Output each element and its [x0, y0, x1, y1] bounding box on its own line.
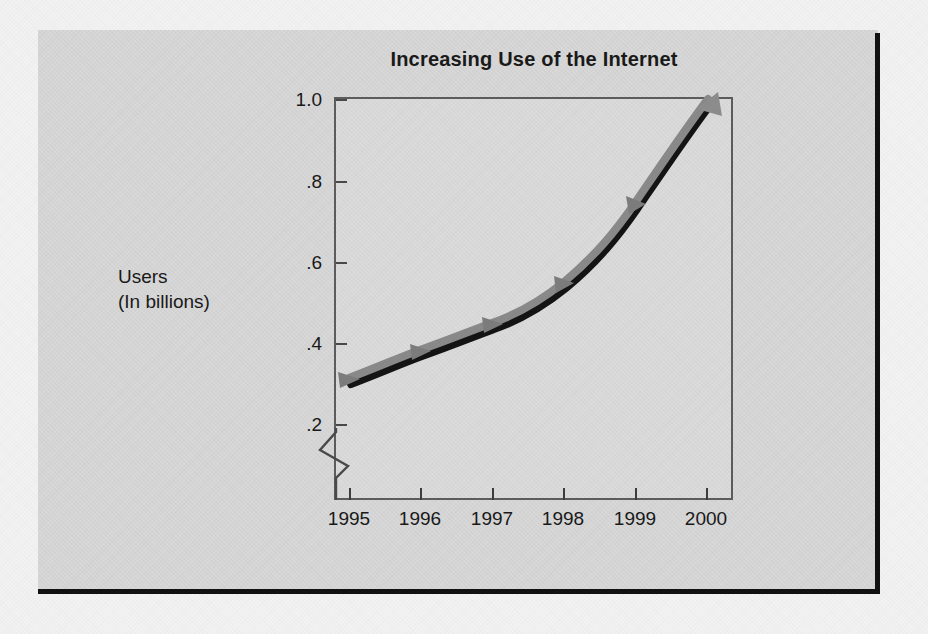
x-axis-tick-label: 1997 [456, 508, 528, 530]
x-axis-tick-label: 2000 [670, 508, 742, 530]
x-axis-tick [563, 488, 565, 500]
y-axis-tick [336, 343, 347, 345]
page-background: Increasing Use of the Internet 1.0 .8 .6… [0, 0, 928, 634]
y-axis-tick-label: .2 [262, 414, 322, 436]
x-axis-tick-label: 1995 [313, 508, 385, 530]
y-axis-tick [336, 424, 347, 426]
x-axis-tick [349, 488, 351, 500]
y-axis-tick [336, 181, 347, 183]
y-axis-tick [336, 99, 347, 101]
plot-frame [334, 97, 733, 500]
x-axis-tick [420, 488, 422, 500]
x-axis-tick-label: 1999 [599, 508, 671, 530]
y-axis-tick [336, 262, 347, 264]
x-axis-tick [635, 488, 637, 500]
line-chart: Increasing Use of the Internet 1.0 .8 .6… [0, 0, 928, 634]
x-axis-tick-label: 1998 [527, 508, 599, 530]
y-axis-tick-label: 1.0 [262, 89, 322, 111]
y-axis-title: Users (In billions) [118, 264, 210, 314]
y-axis-tick-label: .6 [262, 252, 322, 274]
y-axis-tick-label: .8 [262, 171, 322, 193]
chart-title: Increasing Use of the Internet [334, 48, 734, 71]
y-axis-tick-label: .4 [262, 333, 322, 355]
x-axis-tick [492, 488, 494, 500]
x-axis-tick-label: 1996 [384, 508, 456, 530]
x-axis-tick [706, 488, 708, 500]
